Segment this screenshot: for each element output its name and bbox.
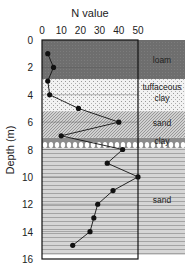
data-point bbox=[95, 202, 100, 207]
y-tick-label: 10 bbox=[22, 172, 34, 183]
y-axis-ticks: 0246810121416 bbox=[22, 35, 34, 265]
data-point bbox=[47, 92, 52, 97]
x-tick-label: 10 bbox=[56, 25, 68, 36]
x-tick-label: 40 bbox=[113, 25, 125, 36]
y-tick-label: 16 bbox=[22, 254, 34, 265]
data-point bbox=[135, 174, 140, 179]
x-tick-label: 50 bbox=[132, 25, 144, 36]
layer-label-tuffaceous-clay: clay bbox=[154, 93, 170, 103]
data-point bbox=[116, 120, 121, 125]
y-tick-label: 8 bbox=[27, 145, 33, 156]
x-tick-label: 0 bbox=[39, 25, 45, 36]
data-point bbox=[70, 243, 75, 248]
y-tick-label: 0 bbox=[27, 35, 33, 46]
y-tick-label: 6 bbox=[27, 117, 33, 128]
data-point bbox=[59, 133, 64, 138]
y-axis-title: Depth (m) bbox=[4, 126, 16, 175]
data-point bbox=[51, 65, 56, 70]
x-tick-label: 20 bbox=[75, 25, 87, 36]
y-tick-label: 4 bbox=[27, 90, 33, 101]
layer-label-clay: clay bbox=[154, 136, 170, 146]
layer-label-loam: loam bbox=[153, 55, 171, 65]
layer-label-sand-lower: sand bbox=[153, 195, 172, 205]
n-value-depth-chart: 01020304050 0246810121416 N value Depth … bbox=[0, 0, 194, 277]
x-axis-ticks: 01020304050 bbox=[39, 25, 144, 36]
data-point bbox=[45, 51, 50, 56]
y-tick-label: 12 bbox=[22, 199, 34, 210]
data-point bbox=[120, 147, 125, 152]
y-tick-label: 2 bbox=[27, 62, 33, 73]
data-point bbox=[105, 161, 110, 166]
layer-label-sand-upper: sand bbox=[153, 118, 172, 128]
data-point bbox=[45, 78, 50, 83]
data-point bbox=[76, 106, 81, 111]
layer-label-tuffaceous: tuffaceous bbox=[142, 82, 181, 92]
y-tick-label: 14 bbox=[22, 227, 34, 238]
x-tick-label: 30 bbox=[94, 25, 106, 36]
data-point bbox=[91, 215, 96, 220]
x-axis-title: N value bbox=[71, 7, 108, 19]
data-point bbox=[110, 188, 115, 193]
data-point bbox=[87, 229, 92, 234]
